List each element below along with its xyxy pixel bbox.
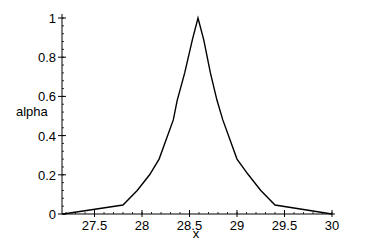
y-tick-label: 0.4 xyxy=(38,129,56,144)
y-axis-label: alpha xyxy=(16,104,49,119)
x-tick-label: 28 xyxy=(135,218,149,233)
x-tick-label: 29 xyxy=(230,218,244,233)
y-tick-label: 0.6 xyxy=(38,89,56,104)
alpha-vs-x-line-chart: 00.20.40.60.81 27.52828.52929.530 alpha … xyxy=(0,0,366,249)
x-tick-label: 29.5 xyxy=(272,218,297,233)
x-axis: 27.52828.52929.530 xyxy=(62,210,339,233)
x-tick-label: 30 xyxy=(325,218,339,233)
y-tick-label: 0.8 xyxy=(38,50,56,65)
y-tick-label: 1 xyxy=(49,11,56,26)
y-tick-label: 0 xyxy=(49,207,56,222)
y-tick-label: 0.2 xyxy=(38,168,56,183)
x-tick-label: 27.5 xyxy=(82,218,107,233)
x-axis-label: x xyxy=(193,226,200,241)
alpha-curve xyxy=(63,18,332,214)
